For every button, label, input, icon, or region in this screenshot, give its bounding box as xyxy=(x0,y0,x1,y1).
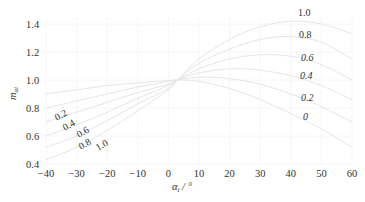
y-tick-label: 0.8 xyxy=(26,103,39,114)
y-tick-label: 0.6 xyxy=(26,131,39,142)
x-axis-label: αi / ° xyxy=(172,181,193,194)
x-tick-label: −40 xyxy=(38,168,54,179)
y-tick-label: 1.4 xyxy=(26,19,40,30)
y-tick-label: 1.2 xyxy=(26,47,39,58)
x-axis-ticks: −40−30−20−100102030405060 xyxy=(38,168,357,179)
x-tick-label: 30 xyxy=(255,168,266,179)
x-tick-label: 50 xyxy=(316,168,327,179)
y-axis-ticks: 0.40.60.81.01.21.4 xyxy=(26,19,40,170)
curve-label-right-0.4: 0.4 xyxy=(300,70,313,81)
y-tick-label: 1.0 xyxy=(26,75,39,86)
curve-label-right-0.6: 0.6 xyxy=(301,52,314,63)
y-axis-label: mai xyxy=(7,87,20,100)
curve-label-right-0: 0 xyxy=(303,111,308,122)
x-tick-label: 20 xyxy=(224,168,235,179)
line-chart: 0.40.60.81.01.21.4 −40−30−20−10010203040… xyxy=(0,0,365,202)
curve-label-right-0.8: 0.8 xyxy=(299,29,312,40)
x-tick-label: 40 xyxy=(286,168,297,179)
y-axis-label-subscript: ai xyxy=(12,87,20,93)
x-tick-label: −10 xyxy=(130,168,146,179)
curve-label-right-0.2: 0.2 xyxy=(301,92,314,103)
x-tick-label: 10 xyxy=(194,168,205,179)
x-tick-label: 60 xyxy=(347,168,358,179)
x-tick-label: −30 xyxy=(68,168,84,179)
x-tick-label: 0 xyxy=(166,168,171,179)
x-tick-label: −20 xyxy=(99,168,115,179)
x-axis-label-unit: / ° xyxy=(179,181,192,192)
curve-label-right-1.0: 1.0 xyxy=(298,7,311,18)
